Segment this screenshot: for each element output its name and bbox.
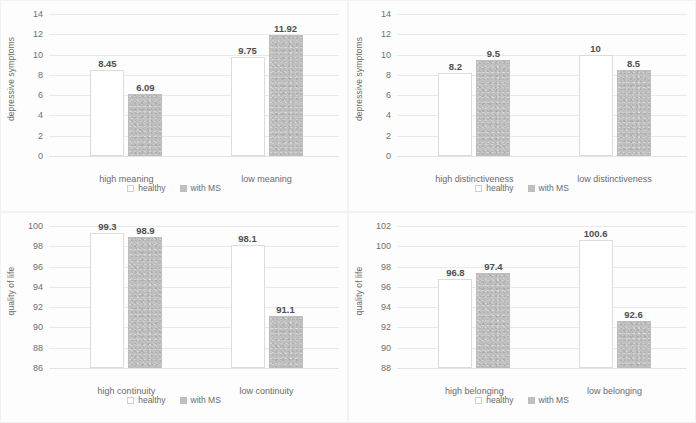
y-tick-label: 94 (381, 302, 391, 312)
bar-value-label: 6.09 (136, 82, 155, 93)
y-tick-label: 88 (381, 363, 391, 373)
legend-entry-healthy[interactable]: healthy (127, 183, 165, 193)
bar-value-label: 10 (590, 43, 601, 54)
chart-panel-bottom-right: quality of life88909294969810010296.897.… (348, 212, 696, 423)
bar-value-label: 96.8 (446, 267, 465, 278)
plot-area: 024681012148.456.09high meaning9.7511.92… (49, 14, 339, 156)
bar-with-ms-low-continuity: 91.1 (269, 316, 303, 368)
bar-healthy-high-continuity: 99.3 (90, 233, 124, 368)
y-axis-title-text: depressive symptoms (6, 36, 16, 120)
y-axis-title: quality of life (351, 213, 367, 368)
bar-with-ms-high-meaning: 6.09 (128, 94, 162, 156)
bar-value-label: 9.5 (487, 48, 500, 59)
plot-area: 8688909294969810099.398.9high continuity… (49, 226, 339, 368)
gridline: 14 (397, 14, 687, 15)
gridline: 0 (49, 156, 339, 157)
legend-swatch-healthy-icon (127, 397, 134, 404)
y-tick-label: 88 (33, 343, 43, 353)
y-tick-label: 96 (381, 282, 391, 292)
bar-value-label: 99.3 (98, 221, 117, 232)
bar-with-ms-low-distinctiveness: 8.5 (617, 70, 651, 156)
y-tick-label: 8 (38, 70, 43, 80)
legend-label-healthy: healthy (486, 183, 513, 193)
chart-panel-bottom-left: quality of life8688909294969810099.398.9… (0, 212, 348, 423)
bar-with-ms-high-distinctiveness: 9.5 (476, 60, 510, 156)
y-tick-label: 86 (33, 363, 43, 373)
bar-value-label: 8.5 (627, 58, 640, 69)
legend-entry-ms[interactable]: with MS (528, 395, 569, 405)
y-tick-label: 14 (33, 9, 43, 19)
legend-swatch-healthy-icon (475, 185, 482, 192)
y-tick-label: 92 (381, 322, 391, 332)
legend-entry-ms[interactable]: with MS (180, 183, 221, 193)
y-axis-title: quality of life (3, 213, 19, 368)
bar-with-ms-high-belonging: 97.4 (476, 273, 510, 368)
bar-value-label: 8.45 (98, 58, 117, 69)
chart-panel-top-left: depressive symptoms024681012148.456.09hi… (0, 0, 348, 212)
legend-swatch-healthy-icon (475, 397, 482, 404)
y-tick-label: 92 (33, 302, 43, 312)
legend-label-ms: with MS (539, 183, 569, 193)
y-tick-label: 2 (38, 131, 43, 141)
bar-with-ms-low-belonging: 92.6 (617, 321, 651, 368)
legend-swatch-ms-icon (528, 185, 535, 192)
y-tick-label: 14 (381, 9, 391, 19)
y-tick-label: 10 (381, 50, 391, 60)
chart-legend: healthywith MS (349, 395, 695, 405)
legend-label-healthy: healthy (138, 183, 165, 193)
legend-swatch-ms-icon (528, 397, 535, 404)
chart-legend: healthywith MS (1, 395, 347, 405)
gridline: 14 (49, 14, 339, 15)
bar-value-label: 11.92 (274, 23, 297, 34)
gridline: 100 (49, 226, 339, 227)
legend-label-ms: with MS (191, 395, 221, 405)
y-tick-label: 94 (33, 282, 43, 292)
plot-area: 88909294969810010296.897.4high belonging… (397, 226, 687, 368)
y-tick-label: 90 (381, 343, 391, 353)
y-tick-label: 90 (33, 322, 43, 332)
y-tick-label: 96 (33, 262, 43, 272)
y-tick-label: 2 (386, 131, 391, 141)
bar-value-label: 91.1 (276, 304, 295, 315)
legend-entry-ms[interactable]: with MS (528, 183, 569, 193)
y-tick-label: 102 (376, 221, 391, 231)
legend-entry-healthy[interactable]: healthy (127, 395, 165, 405)
legend-label-ms: with MS (539, 395, 569, 405)
gridline: 12 (397, 34, 687, 35)
bar-value-label: 9.75 (238, 45, 257, 56)
chart-panel-top-right: depressive symptoms024681012148.29.5high… (348, 0, 696, 212)
legend-label-ms: with MS (191, 183, 221, 193)
gridline: 0 (397, 156, 687, 157)
y-tick-label: 10 (33, 50, 43, 60)
bar-healthy-low-meaning: 9.75 (231, 57, 265, 156)
bar-healthy-low-belonging: 100.6 (579, 240, 613, 368)
gridline: 86 (49, 368, 339, 369)
legend-swatch-ms-icon (180, 185, 187, 192)
chart-legend: healthywith MS (1, 183, 347, 193)
bar-healthy-high-meaning: 8.45 (90, 70, 124, 156)
legend-entry-healthy[interactable]: healthy (475, 183, 513, 193)
bar-value-label: 98.1 (238, 233, 257, 244)
legend-entry-ms[interactable]: with MS (180, 395, 221, 405)
legend-label-healthy: healthy (138, 395, 165, 405)
y-axis-title-text: depressive symptoms (354, 36, 364, 120)
bar-value-label: 92.6 (624, 309, 643, 320)
y-tick-label: 0 (38, 151, 43, 161)
legend-label-healthy: healthy (486, 395, 513, 405)
legend-swatch-ms-icon (180, 397, 187, 404)
gridline: 98 (397, 267, 687, 268)
chart-legend: healthywith MS (349, 183, 695, 193)
y-tick-label: 100 (28, 221, 43, 231)
y-tick-label: 4 (386, 110, 391, 120)
gridline: 88 (397, 368, 687, 369)
bar-healthy-high-distinctiveness: 8.2 (438, 73, 472, 156)
gridline: 10 (397, 55, 687, 56)
legend-swatch-healthy-icon (127, 185, 134, 192)
y-tick-label: 98 (33, 241, 43, 251)
bar-with-ms-low-meaning: 11.92 (269, 35, 303, 156)
y-tick-label: 12 (381, 29, 391, 39)
figure-four-panel-bar-charts: depressive symptoms024681012148.456.09hi… (0, 0, 696, 423)
legend-entry-healthy[interactable]: healthy (475, 395, 513, 405)
y-axis-title-text: quality of life (6, 266, 16, 315)
y-axis-title-text: quality of life (354, 266, 364, 315)
